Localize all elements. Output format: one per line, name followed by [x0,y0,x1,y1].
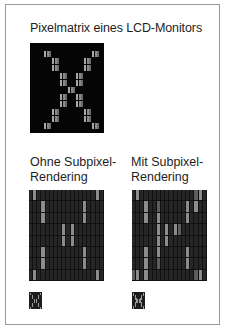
subpixel-cell [100,201,104,212]
lcd-pixel [84,116,92,122]
lcd-pixel-matrix-x [30,43,104,133]
subpixel-cell [203,224,207,235]
thumbnail-stripe [32,303,33,307]
thumbnail-stripe [32,295,33,299]
thumbnail-without-subpixel [29,292,42,309]
thumbnail-stripe [36,299,37,303]
thumbnail-stripe [40,293,41,295]
subpixel-cell [100,190,104,201]
lcd-pixel [76,73,84,79]
subpixel-cell [203,258,207,269]
lcd-pixel [44,51,52,57]
lcd-pixel [92,51,100,57]
panel-label-with-subpixel: Mit Subpixel- Rendering [131,155,203,185]
thumbnail-stripe [38,295,39,299]
lcd-pixel [92,123,100,129]
lcd-pixel [76,80,84,86]
lcd-pixel [60,101,68,107]
thumbnail-stripe [40,307,41,309]
subpixel-cell [203,270,207,281]
lcd-pixel [44,123,52,129]
lcd-pixel [60,73,68,79]
figure-title: Pixelmatrix eines LCD-Monitors [30,21,202,35]
lcd-pixel [60,94,68,100]
subpixel-cell [100,258,104,269]
lcd-pixel [52,65,60,71]
subpixel-cell [100,247,104,258]
grid-with-subpixel-rendering [132,190,207,281]
subpixel-cell [203,247,207,258]
subpixel-cell [100,213,104,224]
thumbnail-stripe [133,293,134,296]
lcd-pixel [76,94,84,100]
subpixel-cell [203,201,207,212]
thumbnail-stripe [34,299,35,303]
panel-label-without-subpixel: Ohne Subpixel- Rendering [30,155,116,185]
subpixel-cell [203,236,207,247]
thumbnail-stripe [141,302,142,307]
thumbnail-stripe [38,303,39,307]
thumbnail-stripe [30,293,31,295]
lcd-pixel [84,58,92,64]
lcd-pixel [68,87,76,93]
subpixel-cell [100,270,104,281]
lcd-pixel [60,80,68,86]
lcd-pixel [52,116,60,122]
lcd-pixel [76,101,84,107]
lcd-pixel [84,65,92,71]
thumbnail-with-subpixel [132,292,145,309]
subpixel-cell [203,213,207,224]
lcd-pixel [52,109,60,115]
lcd-pixel [52,58,60,64]
subpixel-cell [203,190,207,201]
lcd-pixel [84,109,92,115]
subpixel-cell [100,224,104,235]
thumbnail-stripe [135,302,136,307]
thumbnail-stripe [137,299,138,303]
thumbnail-stripe [133,306,134,309]
thumbnail-stripe [143,306,144,309]
thumbnail-stripe [143,293,144,296]
thumbnail-stripe [141,295,142,300]
thumbnail-stripe [30,307,31,309]
grid-without-subpixel-rendering [29,190,104,281]
subpixel-cell [100,236,104,247]
